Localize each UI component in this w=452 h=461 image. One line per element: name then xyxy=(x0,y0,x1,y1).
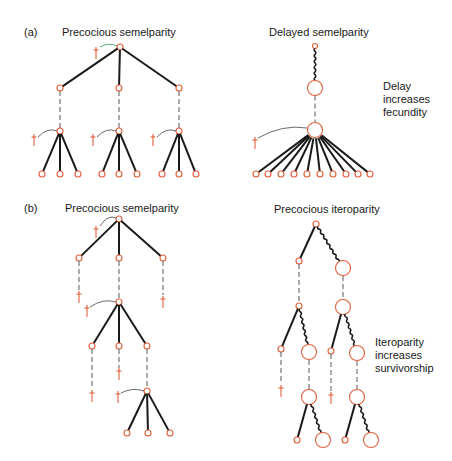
growth-wavy-line xyxy=(299,309,308,345)
note-line: fecundity xyxy=(383,106,430,119)
offspring-branch xyxy=(147,394,148,430)
note-line: Iteroparity xyxy=(375,336,434,349)
small-individual-node xyxy=(116,343,122,349)
growth-wavy-line xyxy=(359,404,369,433)
small-individual-node xyxy=(193,171,199,177)
growth-wavy-line xyxy=(317,227,339,262)
small-individual-node xyxy=(176,128,182,134)
small-individual-node xyxy=(75,171,81,177)
small-individual-node xyxy=(291,171,297,177)
offspring-branch xyxy=(320,137,344,172)
large-individual-node xyxy=(336,300,351,315)
panel-a-label: (a) xyxy=(24,26,37,38)
offspring-branch xyxy=(120,134,136,171)
small-individual-node xyxy=(296,258,302,264)
offspring-branch xyxy=(316,138,320,171)
small-individual-node xyxy=(296,303,302,309)
offspring-branch xyxy=(121,305,146,344)
small-individual-node xyxy=(278,346,284,352)
small-individual-node xyxy=(159,171,165,177)
offspring-branch xyxy=(43,134,59,171)
death-connector xyxy=(100,44,117,47)
small-individual-node xyxy=(57,85,63,91)
small-individual-node xyxy=(39,171,45,177)
small-individual-node xyxy=(304,171,310,177)
offspring-branch xyxy=(298,404,307,437)
offspring-branch xyxy=(321,136,356,172)
offspring-branch xyxy=(332,314,341,348)
small-individual-node xyxy=(253,171,259,177)
small-individual-node xyxy=(57,171,63,177)
note-line: increases xyxy=(383,93,430,106)
small-individual-node xyxy=(116,299,122,305)
small-individual-node xyxy=(116,85,122,91)
note-line: increases xyxy=(375,349,434,362)
panel-b-right-title: Precocious iteroparity xyxy=(274,203,380,215)
death-connector xyxy=(97,130,116,137)
offspring-branch xyxy=(121,221,161,256)
small-individual-node xyxy=(265,171,271,177)
small-individual-node xyxy=(116,216,122,222)
large-individual-node xyxy=(350,390,365,405)
small-individual-node xyxy=(176,171,182,177)
small-individual-node xyxy=(89,343,95,349)
death-connector xyxy=(121,389,144,393)
offspring-branch xyxy=(258,135,308,172)
death-connector xyxy=(258,127,307,138)
panel-a-right-title: Delayed semelparity xyxy=(269,26,369,38)
large-individual-node xyxy=(336,261,351,276)
offspring-branch xyxy=(122,49,176,87)
small-individual-node xyxy=(278,171,284,177)
offspring-branch xyxy=(81,221,117,256)
small-individual-node xyxy=(144,343,150,349)
small-individual-node xyxy=(313,44,318,49)
panel-b-left-title: Precocious semelparity xyxy=(65,202,179,214)
small-individual-node xyxy=(355,171,361,177)
offspring-branch xyxy=(180,134,195,171)
small-individual-node xyxy=(330,171,336,177)
small-individual-node xyxy=(167,430,173,436)
small-individual-node xyxy=(116,128,122,134)
large-individual-node xyxy=(308,123,323,138)
death-connector xyxy=(157,130,176,137)
offspring-branch xyxy=(62,49,117,87)
small-individual-node xyxy=(124,430,130,436)
small-individual-node xyxy=(99,171,105,177)
note-line: Delay xyxy=(383,80,430,93)
small-individual-node xyxy=(294,437,300,443)
offspring-branch xyxy=(300,227,314,259)
small-individual-node xyxy=(117,44,123,50)
growth-wavy-line xyxy=(345,314,355,346)
offspring-branch xyxy=(283,137,310,172)
small-individual-node xyxy=(342,437,348,443)
small-individual-node xyxy=(328,348,334,354)
small-individual-node xyxy=(116,171,122,177)
small-individual-node xyxy=(317,171,323,177)
life-history-diagram xyxy=(0,0,452,461)
small-individual-node xyxy=(144,388,150,394)
small-individual-node xyxy=(367,171,373,177)
death-connector xyxy=(90,301,116,307)
offspring-branch xyxy=(128,394,145,431)
offspring-branch xyxy=(346,404,355,437)
growth-wavy-line xyxy=(314,49,316,81)
panel-a-left-title: Precocious semelparity xyxy=(62,26,176,38)
large-individual-node xyxy=(302,345,317,360)
small-individual-node xyxy=(57,128,63,134)
offspring-branch xyxy=(148,394,168,431)
growth-wavy-line xyxy=(311,404,321,433)
offspring-branch xyxy=(163,134,178,171)
offspring-branch xyxy=(103,134,118,171)
offspring-branch xyxy=(119,50,120,85)
panel-b-right-note: Iteroparity increases survivorship xyxy=(375,336,434,375)
large-individual-node xyxy=(316,433,331,448)
small-individual-node xyxy=(145,430,151,436)
panel-b-label: (b) xyxy=(24,202,37,214)
small-individual-node xyxy=(313,221,319,227)
small-individual-node xyxy=(176,85,182,91)
large-individual-node xyxy=(350,346,365,361)
death-connector xyxy=(38,130,57,137)
panel-a-right-note: Delay increases fecundity xyxy=(383,80,430,119)
large-individual-node xyxy=(302,390,317,405)
large-individual-node xyxy=(308,81,323,96)
